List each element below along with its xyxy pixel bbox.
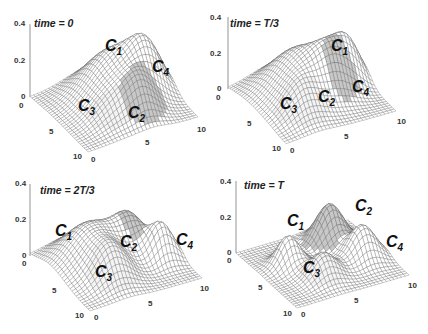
x-tick-5: 5: [145, 138, 149, 147]
label-c4: C4: [386, 233, 403, 253]
x-tick-0: 0: [94, 313, 98, 322]
label-c4: C4: [352, 78, 369, 98]
x-tick-5: 5: [148, 299, 152, 308]
z-tick-0-2: 0.2: [15, 215, 26, 224]
label-c4: C4: [152, 58, 169, 78]
panel-title: time = 0: [34, 17, 73, 29]
y-tick-5: 5: [247, 119, 251, 128]
label-c3: C3: [280, 95, 297, 115]
x-tick-5: 5: [354, 296, 358, 305]
label-c1: C1: [287, 212, 304, 232]
label-c1: C1: [105, 37, 122, 57]
y-tick-10: 10: [272, 144, 281, 153]
z-tick-0-4: 0.4: [210, 13, 221, 22]
panel-title: time = T: [244, 179, 284, 191]
z-tick-0-2: 0.2: [210, 49, 221, 58]
y-tick-0: 0: [216, 93, 220, 102]
y-tick-0: 0: [19, 101, 23, 110]
x-tick-0: 0: [290, 146, 294, 155]
label-c1: C1: [55, 222, 72, 242]
y-tick-0: 0: [227, 256, 231, 265]
label-c4: C4: [176, 231, 193, 251]
label-c3: C3: [95, 263, 112, 283]
label-c2: C2: [355, 197, 372, 217]
z-tick-0-4: 0.4: [220, 177, 231, 186]
z-tick-0-2: 0.2: [220, 213, 231, 222]
label-c3: C3: [78, 97, 95, 117]
y-tick-5: 5: [52, 286, 56, 295]
label-c1: C1: [331, 37, 348, 57]
x-tick-0: 0: [301, 310, 305, 319]
x-tick-10: 10: [197, 125, 206, 134]
y-tick-10: 10: [75, 311, 84, 320]
panel-time-0: time = 0 0.4 0.2 0 0 5 10 0 5 10 C1 C2 C…: [0, 0, 214, 167]
panel-time-2t-3: time = 2T/3 0.4 0.2 0 0 5 10 0 5 10 C1 C…: [0, 167, 214, 334]
panel-title: time = T/3: [230, 17, 279, 29]
label-c2: C2: [128, 104, 145, 124]
y-tick-10: 10: [283, 309, 292, 318]
panel-time-t-3: time = T/3 0.4 0.2 0 0 5 10 0 5 10 C1 C2…: [214, 0, 428, 167]
y-tick-0: 0: [22, 259, 26, 268]
label-c2: C2: [318, 88, 335, 108]
x-tick-10: 10: [200, 284, 209, 293]
label-c3: C3: [303, 259, 320, 279]
surface-plot: [0, 0, 214, 167]
z-tick-0-4: 0.4: [14, 19, 25, 28]
x-tick-0: 0: [91, 155, 95, 164]
panel-title: time = 2T/3: [40, 184, 95, 196]
x-tick-5: 5: [344, 132, 348, 141]
z-tick-0: 0: [217, 84, 221, 93]
x-tick-10: 10: [408, 281, 417, 290]
y-tick-5: 5: [49, 127, 53, 136]
x-tick-10: 10: [397, 117, 406, 126]
z-tick-0-2: 0.2: [14, 56, 25, 65]
y-tick-5: 5: [258, 283, 262, 292]
label-c2: C2: [120, 233, 137, 253]
y-tick-10: 10: [73, 152, 82, 161]
z-tick-0-4: 0.4: [15, 179, 26, 188]
panel-time-t: time = T 0.4 0.2 0 0 5 10 0 5 10 C1 C2 C…: [214, 167, 428, 334]
z-tick-0: 0: [21, 92, 25, 101]
